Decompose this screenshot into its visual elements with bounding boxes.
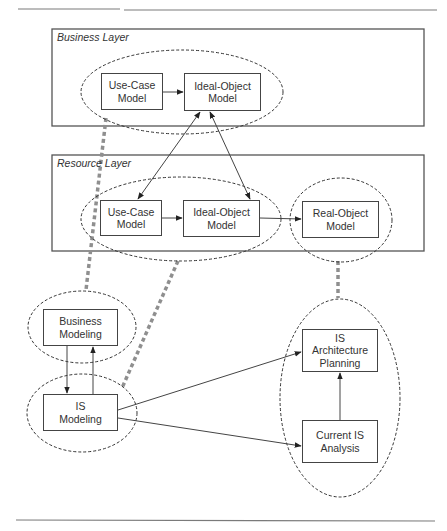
business-ideal-object-model: Ideal-Object Model (184, 73, 261, 111)
resource-ideal-object-model: Ideal-Object Model (183, 200, 260, 237)
bottom-rule (16, 520, 435, 521)
business-modeling-node: Business Modeling (43, 309, 118, 346)
resource-use-case-model: Use-Case Model (100, 200, 162, 236)
resource-layer-label: Resource Layer (57, 157, 131, 169)
business-layer-label: Business Layer (57, 31, 129, 43)
arrow-is-to-current-analysis (118, 418, 301, 446)
mapping-line-is-modeling (122, 261, 178, 388)
arrow-ideal-to-real (260, 218, 301, 219)
is-modeling-node: IS Modeling (43, 394, 118, 431)
business-use-case-model: Use-Case Model (101, 73, 163, 110)
arrow-is-to-architecture-planning (118, 352, 301, 410)
is-architecture-planning-node: IS Architecture Planning (302, 329, 378, 372)
resource-real-object-model: Real-Object Model (302, 201, 379, 238)
current-is-analysis-node: Current IS Analysis (302, 420, 378, 463)
